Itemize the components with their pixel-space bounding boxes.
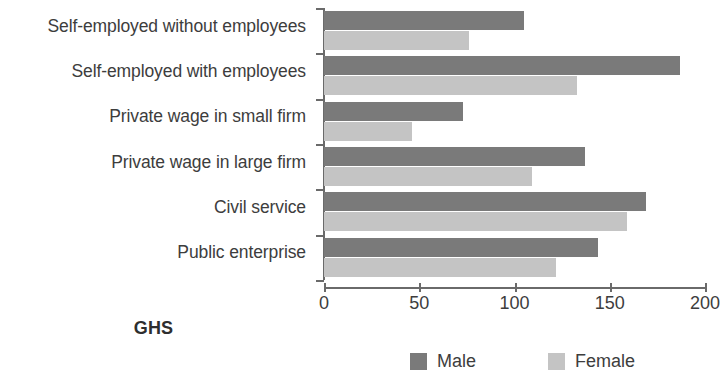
x-axis-tick: [419, 283, 421, 292]
x-axis-title-text: GHS: [134, 318, 174, 338]
legend-item-male: Male: [410, 352, 476, 370]
legend-label-female: Female: [575, 352, 635, 370]
x-axis-tick-label: 0: [319, 294, 329, 312]
x-axis-tick-label: 200: [690, 294, 720, 312]
x-axis-tick: [610, 283, 612, 292]
y-axis-tick: [316, 189, 324, 191]
x-axis-tick-label: 150: [595, 294, 625, 312]
bar-female: [324, 212, 627, 231]
bar-chart: Self-employed without employees Self-emp…: [0, 0, 723, 382]
legend-item-female: Female: [548, 352, 635, 370]
chart-legend: Male Female: [0, 352, 723, 378]
category-label: Public enterprise: [177, 244, 306, 262]
x-axis-tick: [324, 283, 326, 292]
x-axis-title: GHS: [0, 318, 723, 339]
bar-group: [324, 99, 705, 144]
y-axis-tick: [316, 8, 324, 10]
y-axis-tick: [316, 144, 324, 146]
bar-female: [324, 31, 469, 50]
bar-female: [324, 167, 532, 186]
bar-female: [324, 76, 577, 95]
bar-group: [324, 8, 705, 53]
category-label: Self-employed with employees: [71, 63, 306, 81]
bar-male: [324, 11, 524, 30]
bar-group: [324, 189, 705, 234]
legend-label-male: Male: [437, 352, 476, 370]
x-axis-tick-label: 50: [409, 294, 429, 312]
bar-group: [324, 144, 705, 189]
category-label: Private wage in large firm: [111, 154, 306, 172]
bar-male: [324, 56, 680, 75]
category-label: Private wage in small firm: [109, 108, 306, 126]
x-axis-tick-label: 100: [499, 294, 529, 312]
bar-group: [324, 235, 705, 280]
bar-male: [324, 102, 463, 121]
bar-male: [324, 192, 646, 211]
x-axis-tick: [515, 283, 517, 292]
x-axis-tick: [705, 283, 707, 292]
y-axis-tick: [316, 99, 324, 101]
plot-area: [324, 8, 705, 280]
female-swatch-icon: [548, 353, 565, 370]
y-axis-tick: [316, 280, 324, 282]
category-label: Civil service: [214, 199, 306, 217]
category-axis-labels: Self-employed without employees Self-emp…: [0, 8, 314, 280]
y-axis-tick: [316, 53, 324, 55]
bar-male: [324, 238, 598, 257]
bar-group: [324, 53, 705, 98]
male-swatch-icon: [410, 353, 427, 370]
x-axis-ticks: [324, 283, 706, 293]
bar-male: [324, 147, 585, 166]
bar-female: [324, 258, 556, 277]
bar-female: [324, 122, 412, 141]
x-axis-tick-labels: 050100150200: [0, 294, 723, 318]
y-axis-tick: [316, 235, 324, 237]
category-label: Self-employed without employees: [47, 18, 306, 36]
